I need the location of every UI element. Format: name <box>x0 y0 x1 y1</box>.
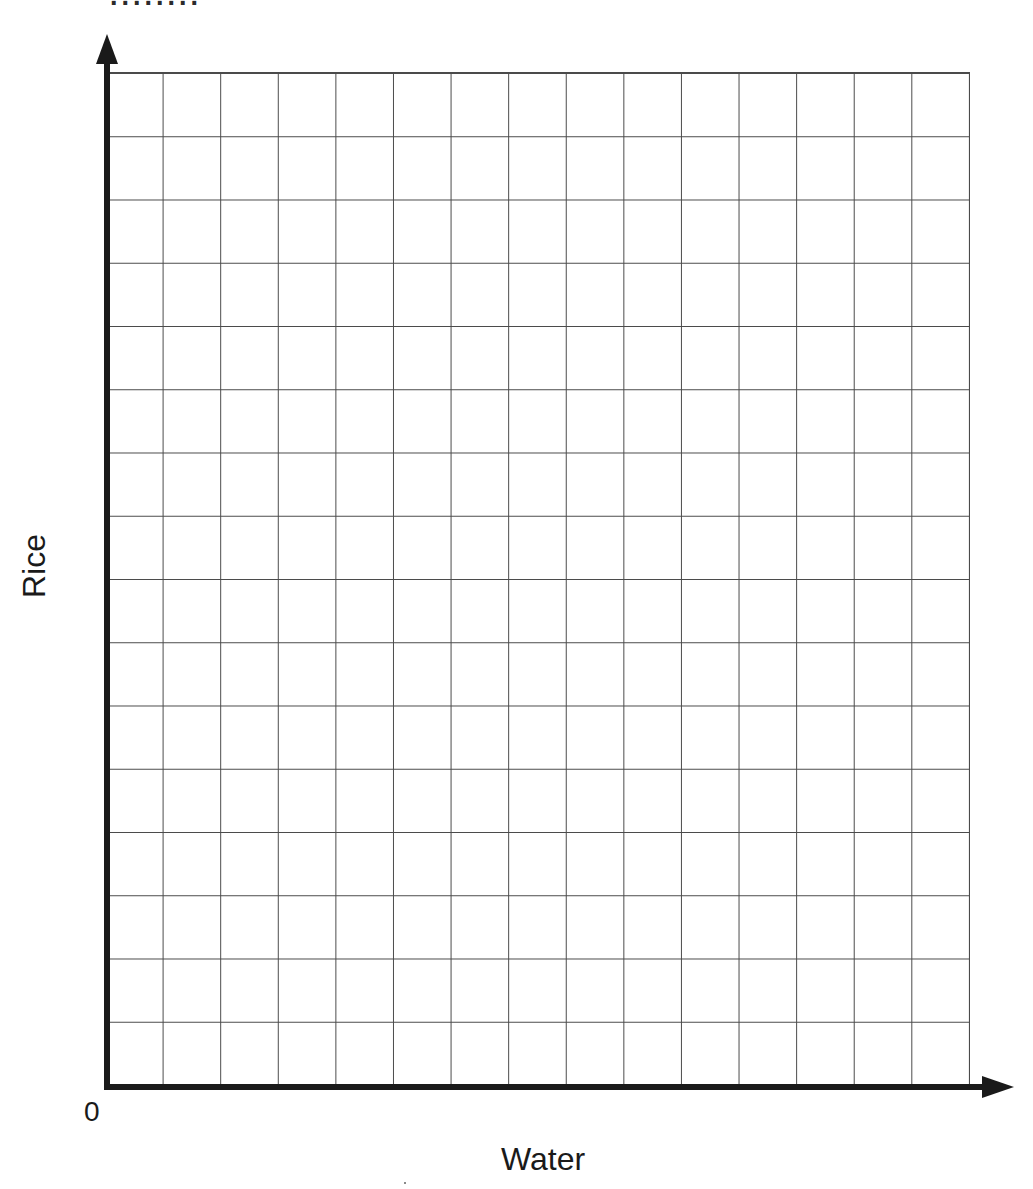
scan-artifact-dot <box>404 1182 406 1184</box>
y-axis-label: Rice <box>16 534 53 598</box>
y-axis-arrow-icon <box>96 34 118 64</box>
clipped-text-fragment: ........ <box>110 0 230 7</box>
plot-grid <box>105 72 970 1085</box>
clipped-text: ........ <box>110 0 202 7</box>
worksheet-page: ........ 0 Rice Water <box>0 0 1033 1189</box>
x-axis-line <box>104 1084 986 1090</box>
x-axis-label: Water <box>501 1141 585 1178</box>
y-axis-line <box>104 56 110 1090</box>
x-axis-arrow-icon <box>982 1076 1014 1098</box>
origin-label: 0 <box>84 1096 100 1128</box>
